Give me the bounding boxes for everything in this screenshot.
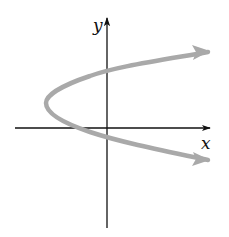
y-axis-label: y	[92, 15, 103, 35]
diagram: y x	[0, 0, 229, 237]
x-axis-label: x	[201, 133, 211, 153]
parabola-curve	[46, 52, 208, 160]
